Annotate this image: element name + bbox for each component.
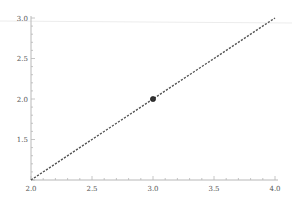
x-tick-label: 3.0: [147, 185, 158, 193]
y-tick-label: 1.5: [17, 136, 28, 144]
point-marker: [150, 96, 155, 101]
tick-labels: 2.02.53.03.54.01.52.02.53.0: [17, 15, 281, 194]
line-chart: 2.02.53.03.54.01.52.02.53.0: [0, 0, 292, 204]
x-tick-label: 3.5: [208, 185, 219, 193]
x-tick-label: 2.5: [86, 185, 97, 193]
x-tick-label: 4.0: [269, 185, 280, 193]
artifact-line: [0, 21, 292, 23]
x-tick-label: 2.0: [25, 185, 36, 193]
y-tick-label: 2.0: [17, 96, 28, 104]
data-markers: [150, 96, 155, 101]
y-tick-label: 2.5: [17, 55, 28, 63]
y-tick-label: 3.0: [17, 15, 28, 23]
